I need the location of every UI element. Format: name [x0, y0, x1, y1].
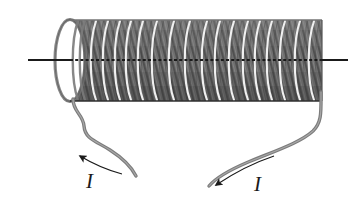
- current-arrow-right-shaft: [216, 156, 274, 185]
- lead-wire-left-core: [73, 99, 136, 176]
- solenoid-diagram-canvas: [0, 0, 352, 211]
- current-arrow-right: [216, 156, 274, 185]
- lead-wire-right-core: [209, 92, 321, 186]
- current-label-left: I: [86, 171, 93, 192]
- solenoid-figure: I I: [0, 0, 352, 211]
- lead-wire-left: [73, 99, 136, 176]
- current-label-right: I: [254, 174, 261, 195]
- lead-wire-right: [209, 92, 321, 186]
